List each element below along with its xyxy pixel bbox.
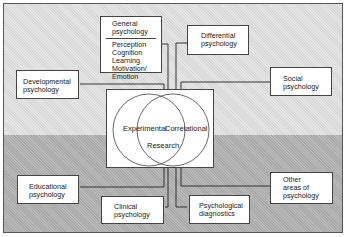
- correlational-label: Correlational: [165, 124, 208, 133]
- topic-emotion: Emotion: [112, 73, 156, 81]
- general-psychology-topics: Perception Cognition Learning Motivation…: [106, 41, 156, 81]
- general-psychology-box: General psychology Perception Cognition …: [100, 16, 162, 73]
- general-psychology-title: General psychology: [106, 20, 156, 36]
- other-areas-box: Other areas of psychology: [270, 172, 333, 204]
- experimental-label: Experimental: [123, 124, 167, 133]
- research-label: Research: [147, 141, 179, 150]
- psychological-diagnostics-box: Psychological diagnostics: [189, 195, 250, 224]
- educational-psychology-box: Educational psychology: [17, 175, 79, 204]
- differential-psychology-box: Differential psychology: [187, 25, 249, 55]
- developmental-psychology-box: Developmental psychology: [16, 70, 79, 99]
- research-box: Experimental Correlational Research: [106, 89, 214, 168]
- title-divider: [106, 38, 156, 39]
- clinical-psychology-box: Clinical psychology: [101, 196, 164, 224]
- social-psychology-box: Social psychology: [270, 67, 332, 96]
